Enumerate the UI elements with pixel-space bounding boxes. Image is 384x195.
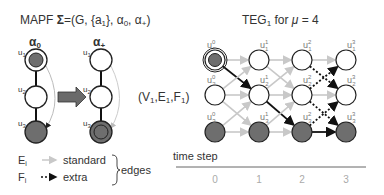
tick-label: 2: [299, 174, 305, 185]
agent-a1: [29, 53, 43, 67]
teg-edges: [223, 60, 338, 132]
tick-label: 3: [343, 174, 349, 185]
teg-node-u3-2: [336, 85, 356, 105]
transition-arrow-icon: [58, 87, 86, 107]
teg-node-u3-3: [336, 122, 356, 142]
label-u2: u2: [18, 85, 26, 95]
node-u1: [90, 49, 112, 71]
node-u2: [25, 86, 47, 108]
label-u3: u3: [18, 119, 26, 129]
teg-agent-a1: [209, 54, 222, 67]
tuple-label: (V1,E1,F1): [138, 90, 189, 105]
teg-node-label: u03: [207, 111, 216, 124]
teg-node-u1-1: [249, 50, 269, 70]
node-u3-goal: [25, 121, 47, 143]
teg-title: TEG1 for μ = 4: [242, 13, 319, 28]
legend-e-label: Ei: [18, 154, 27, 167]
label-u1: u1: [18, 48, 26, 58]
teg-node-u0-3: [205, 122, 225, 142]
graph-alphaplus: u1 u2 u3: [83, 48, 120, 143]
legend-standard-text: standard: [63, 154, 106, 166]
tick-label: 1: [256, 174, 262, 185]
legend-edges-text: edges: [121, 164, 151, 176]
alphaplus-label: α+: [93, 35, 105, 50]
alpha0-label: α0: [29, 35, 41, 50]
mapf-title: MAPF Σ=(G, {a1}, α0, α+): [20, 13, 150, 28]
teg-node-u1-3: [249, 122, 269, 142]
axis-title: time step: [173, 150, 218, 162]
legend-extra-text: extra: [63, 171, 88, 183]
node-u2: [90, 86, 112, 108]
teg-node-u2-2: [292, 85, 312, 105]
label-u2: u2: [83, 85, 91, 95]
mapf-diagram: MAPF Σ=(G, {a1}, α0, α+) α0 α+ u1 u2 u3 …: [0, 0, 384, 195]
legend-f-label: Fi: [18, 171, 27, 184]
agent-a1: [94, 125, 108, 139]
graph-alpha0: u1 u2 u3: [18, 48, 55, 143]
teg-node-u1-2: [249, 85, 269, 105]
legend-brace: [112, 155, 120, 185]
label-u1: u1: [83, 48, 91, 58]
teg-node-u3-1: [336, 50, 356, 70]
tick-label: 0: [212, 174, 218, 185]
teg-node-u0-2: [205, 85, 225, 105]
teg-node-u2-3: [292, 122, 312, 142]
teg-node-label: u02: [207, 74, 216, 87]
label-u3: u3: [83, 119, 91, 129]
teg-nodes: u01u02u03u11u12u13u21u22u23u31u32u33: [203, 39, 356, 142]
time-axis-ticks: 0123: [212, 174, 349, 185]
teg-node-u2-1: [292, 50, 312, 70]
